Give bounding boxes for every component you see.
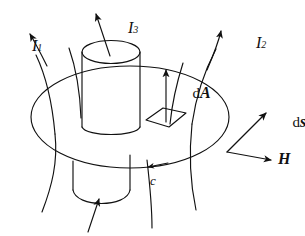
current-2-arrow — [207, 31, 221, 70]
upper-cylinder-base-arc — [82, 127, 140, 135]
lower-current-arrow — [88, 199, 99, 232]
field-line-left — [36, 55, 55, 134]
current-3-arrow — [96, 14, 110, 56]
field-vector-arrow — [227, 152, 271, 160]
field-line-center — [69, 48, 81, 118]
upper-cylinder-cap — [82, 41, 140, 64]
path-element-arrow — [227, 113, 266, 152]
field-line-right — [192, 49, 216, 124]
diagram-canvas — [0, 0, 305, 236]
field-line-bottom-center — [147, 160, 152, 228]
figure-container: I1 I2 I3 dA ds H c — [0, 0, 305, 236]
lower-cylinder-bottom-arc — [73, 190, 130, 204]
surface-disk — [31, 66, 229, 168]
field-line-right-lower — [190, 124, 196, 210]
